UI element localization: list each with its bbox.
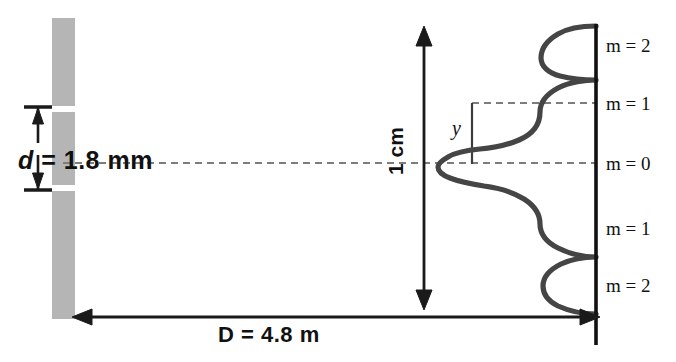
- fringe-label-upper-m1: m = 1: [606, 94, 651, 113]
- barrier-block-bottom: [52, 191, 75, 319]
- figure-canvas: d = 1.8 mm D = 4.8 m 1 cm y m = 2 m = 1 …: [0, 0, 676, 362]
- slit-separation-symbol: d: [18, 146, 34, 174]
- fringe-offset-label: y: [452, 118, 461, 138]
- barrier-block-top: [52, 18, 75, 106]
- fringe-label-lower-m2: m = 2: [606, 276, 651, 295]
- diagram-svg: [0, 0, 676, 362]
- intensity-curve: [438, 26, 596, 314]
- screen-height-arrow-top: [416, 26, 432, 46]
- fringe-label-upper-m2: m = 2: [606, 36, 651, 55]
- screen-distance-label: D = 4.8 m: [218, 324, 320, 346]
- fringe-label-lower-m1: m = 1: [606, 219, 651, 238]
- screen-distance-dimension: [72, 309, 600, 325]
- slit-dim-arrow-down-head: [33, 173, 44, 189]
- screen-height-arrow-bottom: [416, 290, 432, 310]
- fringe-label-central-m0: m = 0: [606, 154, 651, 173]
- slit-dim-arrow-up-head: [33, 108, 44, 124]
- screen-height-dimension: [416, 26, 432, 310]
- screen-height-label: 1 cm: [385, 127, 406, 175]
- slit-separation-label: d = 1.8 mm: [18, 148, 153, 173]
- slit-separation-value: = 1.8 mm: [34, 146, 153, 174]
